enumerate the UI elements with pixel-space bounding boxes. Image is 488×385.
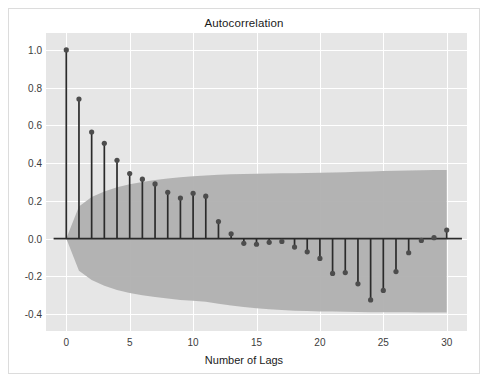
x-axis-label: Number of Lags (0, 354, 488, 366)
autocorrelation-chart-screenshot: Autocorrelation -0.4-0.20.00.20.40.60.81… (0, 0, 488, 385)
x-axis-tick-label: 20 (300, 337, 340, 348)
x-axis-tick-label: 10 (173, 337, 213, 348)
x-axis-ticks: 051015202530 (0, 0, 488, 385)
x-axis-tick-label: 15 (237, 337, 277, 348)
x-axis-tick-label: 25 (363, 337, 403, 348)
x-axis-tick-label: 30 (427, 337, 467, 348)
x-axis-tick-label: 5 (110, 337, 150, 348)
x-axis-tick-label: 0 (46, 337, 86, 348)
